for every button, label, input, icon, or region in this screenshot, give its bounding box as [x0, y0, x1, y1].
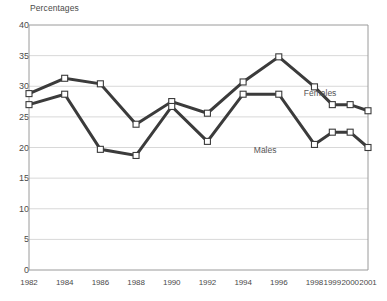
data-point-marker — [365, 145, 371, 151]
plot-area — [0, 0, 387, 301]
x-axis-tick: 1994 — [234, 278, 251, 287]
x-axis-tick: 1992 — [199, 278, 216, 287]
data-point-marker — [276, 91, 282, 97]
x-axis-tick: 1999 — [324, 278, 341, 287]
x-axis-tick: 1990 — [163, 278, 180, 287]
data-point-marker — [311, 141, 317, 147]
x-axis-tick: 1998 — [306, 278, 323, 287]
x-axis-tick: 1982 — [20, 278, 37, 287]
data-point-marker — [240, 79, 246, 85]
x-axis-tick: 1988 — [127, 278, 144, 287]
data-point-marker — [26, 102, 32, 108]
data-point-marker — [169, 103, 175, 109]
data-point-marker — [97, 146, 103, 152]
data-point-marker — [62, 91, 68, 97]
series-label-males: Males — [254, 145, 277, 155]
x-axis-tick: 1986 — [92, 278, 109, 287]
data-point-marker — [26, 91, 32, 97]
series-label-females: Females — [304, 88, 337, 98]
data-point-marker — [97, 81, 103, 87]
data-point-marker — [62, 75, 68, 81]
data-point-marker — [329, 102, 335, 108]
x-axis-tick: 2001 — [359, 278, 376, 287]
data-point-marker — [204, 110, 210, 116]
x-axis-tick: 1984 — [56, 278, 73, 287]
data-point-marker — [240, 91, 246, 97]
data-point-marker — [276, 54, 282, 60]
data-point-marker — [347, 102, 353, 108]
data-point-marker — [365, 108, 371, 114]
line-chart: Percentages 0510152025303540 19821984198… — [0, 0, 387, 301]
data-point-marker — [329, 129, 335, 135]
x-axis-tick: 1996 — [270, 278, 287, 287]
data-point-marker — [133, 121, 139, 127]
data-point-marker — [347, 129, 353, 135]
data-point-marker — [133, 152, 139, 158]
x-axis-tick: 2000 — [341, 278, 358, 287]
data-point-marker — [204, 138, 210, 144]
